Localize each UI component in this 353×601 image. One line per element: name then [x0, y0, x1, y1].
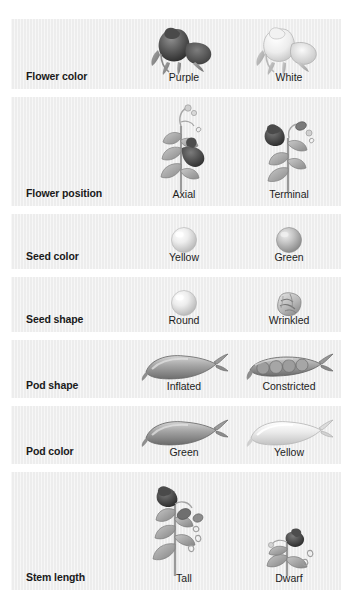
variant-caption: Round	[124, 314, 244, 326]
trait-row: Flower color	[11, 19, 341, 89]
variant-caption: Purple	[124, 71, 244, 83]
trait-label-seed-shape: Seed shape	[26, 313, 83, 325]
trait-row: Seed color Yellow	[11, 214, 341, 269]
trait-row: Pod shape Inflated	[11, 340, 341, 398]
trait-label-flower-position: Flower position	[26, 187, 102, 199]
variant-flower-position-recessive: Terminal	[229, 188, 341, 200]
trait-label-flower-color: Flower color	[26, 70, 87, 82]
variant-pod-color-dominant: Green	[124, 446, 244, 458]
variant-pod-shape-dominant: Inflated	[124, 380, 244, 392]
trait-label-seed-color: Seed color	[26, 250, 79, 262]
variant-stem-length-dominant: Tall	[124, 572, 244, 584]
variant-seed-color-recessive: Green	[229, 251, 341, 263]
variant-caption: Green	[229, 251, 341, 263]
variant-caption: Inflated	[124, 380, 244, 392]
variant-flower-color-recessive: White	[229, 71, 341, 83]
variant-seed-shape-dominant: Round	[124, 314, 244, 326]
variant-caption: Dwarf	[229, 572, 341, 584]
variant-caption: White	[229, 71, 341, 83]
variant-caption: Yellow	[229, 446, 341, 458]
trait-label-pod-shape: Pod shape	[26, 379, 78, 391]
variant-flower-position-dominant: Axial	[124, 188, 244, 200]
variant-caption: Constricted	[229, 380, 341, 392]
variant-stem-length-recessive: Dwarf	[229, 572, 341, 584]
trait-row: Seed shape Round	[11, 277, 341, 332]
variant-caption: Wrinkled	[229, 314, 341, 326]
variant-caption: Tall	[124, 572, 244, 584]
variant-flower-color-dominant: Purple	[124, 71, 244, 83]
variant-caption: Green	[124, 446, 244, 458]
trait-row: Flower position	[11, 97, 341, 206]
variant-caption: Terminal	[229, 188, 341, 200]
variant-pod-shape-recessive: Constricted	[229, 380, 341, 392]
variant-seed-shape-recessive: Wrinkled	[229, 314, 341, 326]
variant-seed-color-dominant: Yellow	[124, 251, 244, 263]
variant-caption: Yellow	[124, 251, 244, 263]
mendel-pea-traits-figure: Flower color	[0, 0, 353, 601]
variant-caption: Axial	[124, 188, 244, 200]
trait-label-stem-length: Stem length	[26, 571, 85, 583]
variant-pod-color-recessive: Yellow	[229, 446, 341, 458]
trait-label-pod-color: Pod color	[26, 445, 74, 457]
trait-row: Stem length	[11, 472, 341, 590]
trait-row: Pod color Green	[11, 406, 341, 464]
